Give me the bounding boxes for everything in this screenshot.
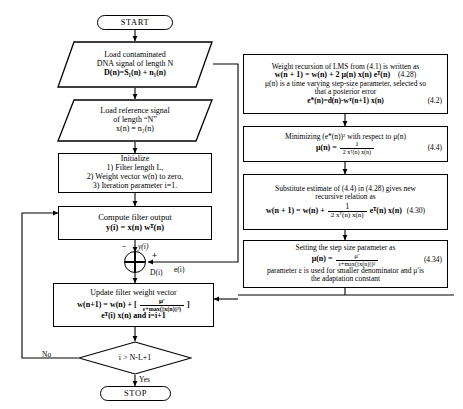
box3-line2: recursive relation as: [315, 193, 375, 201]
box2-denominator: 2 xᵀ(n) x(n): [340, 148, 374, 155]
box4-fraction: μ′ ε+max(||x(n)||)²: [336, 253, 379, 267]
box4-equation-row: μ(n) = μ′ ε+max(||x(n)||)² (4.34): [244, 253, 447, 267]
summation-d-input-label: D(i): [150, 268, 163, 277]
iteration-check-decision: i > N-L+1: [78, 341, 192, 375]
summation-e-output-label: e(i): [174, 265, 184, 274]
update-weight-vector-node: Update filter weight vector w(n+1) = w(n…: [53, 283, 214, 327]
box2-numerator: 1: [352, 141, 362, 148]
step-size-parameter-box: Setting the step size parameter as μ(n) …: [243, 240, 448, 288]
box4-line4: the adaptation constant: [311, 275, 380, 283]
update-eq-suffix: ]: [187, 301, 190, 310]
summation-plus-sign: +: [152, 250, 157, 260]
initialize-node: Initialize 1) Filter length L, 2) Weight…: [58, 153, 212, 193]
initialize-item-3: 3) Iteration parameter i=1.: [93, 182, 177, 191]
box1-equation-2: e*(n)=d(n)-wᵀ(n+1) x(n): [307, 97, 384, 105]
load-contaminated-equation: D(n)=S₁(n) + n₁(n): [97, 69, 173, 78]
box3-numerator: 1: [342, 203, 352, 211]
summing-junction: [124, 251, 146, 273]
compute-output-equation: y(i) = x(n) wᵀ(n): [106, 223, 164, 233]
box2-fraction: 1 2 xᵀ(n) x(n): [340, 141, 374, 155]
substitute-estimate-box: Substitute estimate of (4.4) in (4.28) g…: [243, 174, 448, 230]
update-weights-equation: w(n+1) = w(n) + [ μ′ ε+max(||x(n)||²) ]: [77, 298, 190, 312]
box1-equation-2-row: e*(n)=d(n)-wᵀ(n+1) x(n) (4.2): [244, 97, 447, 105]
load-contaminated-signal-node: Load contaminated DNA signal of length N…: [57, 41, 213, 88]
minimizing-box: Minimizing (e*(n))² with respect to μ(n)…: [243, 126, 448, 162]
flowchart-canvas: START Load contaminated DNA signal of le…: [0, 0, 463, 409]
box4-line1: Setting the step size parameter as: [296, 244, 396, 252]
box3-equation-rhs: eᵀ(n) x(n): [370, 207, 402, 216]
box2-equation-lhs: μ(n) =: [316, 144, 337, 153]
box2-line1: Minimizing (e*(n))² with respect to μ(n): [285, 133, 406, 141]
stop-terminator: STOP: [100, 386, 171, 401]
update-eq-numerator: μ′: [156, 298, 168, 305]
decision-label: i > N-L+1: [119, 354, 152, 363]
box3-equation-row: w(n + 1) = w(n) + 1 2 xᵀ(n) x(n) eᵀ(n) x…: [266, 203, 425, 219]
update-eq-prefix: w(n+1) = w(n) + [: [77, 301, 136, 310]
decision-branch-no-label: No: [42, 350, 51, 359]
stop-label: STOP: [124, 389, 147, 399]
box3-equation-tag: (4.30): [407, 207, 425, 215]
load-reference-equation: x(n) = n₂(n): [100, 125, 169, 134]
box4-equation-lhs: μ(n) =: [312, 255, 333, 264]
box4-numerator: μ′: [351, 253, 362, 260]
box3-equation-lhs: w(n + 1) = w(n) +: [266, 207, 325, 216]
box4-equation-tag: (4.34): [424, 256, 442, 264]
summation-y-input-label: y(i): [138, 242, 148, 251]
decision-branch-yes-label: Yes: [139, 375, 150, 384]
start-terminator: START: [97, 15, 173, 30]
box3-denominator: 2 xᵀ(n) x(n): [328, 211, 367, 219]
box4-denominator: ε+max(||x(n)||)²: [336, 260, 379, 267]
summing-junction-vline: [134, 252, 135, 272]
load-reference-signal-node: Load reference signal of length “N” x(n)…: [57, 99, 213, 142]
box2-equation-row: μ(n) = 1 2 xᵀ(n) x(n) (4.4): [244, 141, 447, 155]
start-label: START: [121, 18, 150, 28]
lms-weight-recursion-box: Weight recursion of LMS from (4.1) is wr…: [243, 54, 448, 114]
update-weights-line3: eᵀ(i) x(n) and i=i+1: [101, 312, 165, 321]
box1-equation-2-tag: (4.2): [428, 97, 442, 105]
compute-filter-output-node: Compute filter output y(i) = x(n) wᵀ(n): [58, 206, 212, 240]
summation-minus-sign: −: [122, 242, 126, 251]
box3-fraction: 1 2 xᵀ(n) x(n): [328, 203, 367, 219]
update-eq-fraction: μ′ ε+max(||x(n)||²): [140, 298, 184, 312]
box2-equation-tag: (4.4): [428, 144, 442, 152]
